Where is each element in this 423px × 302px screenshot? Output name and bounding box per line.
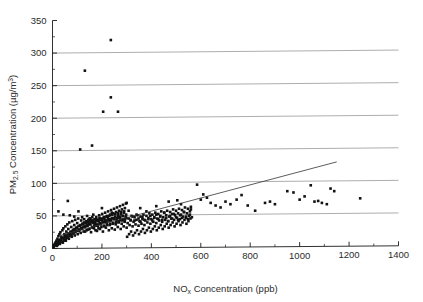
data-point: [329, 187, 332, 190]
data-point: [141, 218, 144, 221]
y-tick-label-350: 350: [31, 15, 47, 26]
data-point: [116, 217, 119, 220]
data-point: [128, 233, 131, 236]
data-point: [196, 183, 199, 186]
data-point: [143, 224, 146, 227]
data-point: [79, 148, 82, 151]
data-point: [303, 195, 306, 198]
data-point: [146, 229, 149, 232]
data-point: [115, 211, 118, 214]
data-point: [84, 69, 87, 72]
data-point: [326, 203, 329, 206]
data-point: [57, 210, 60, 213]
data-point: [173, 225, 176, 228]
data-point: [67, 228, 70, 231]
y-tick-label-200: 200: [31, 113, 47, 124]
data-point: [140, 222, 143, 225]
data-point: [99, 222, 102, 225]
data-point: [147, 217, 150, 220]
data-point: [134, 223, 137, 226]
data-point: [161, 228, 164, 231]
data-point: [133, 216, 136, 219]
data-point: [103, 216, 106, 219]
data-point: [202, 193, 205, 196]
data-point: [151, 213, 154, 216]
data-point: [69, 214, 72, 217]
data-point: [187, 207, 190, 210]
data-point: [185, 222, 188, 225]
data-point: [142, 228, 145, 231]
data-point: [119, 228, 122, 231]
data-point: [188, 215, 191, 218]
data-point: [126, 235, 129, 238]
data-point: [122, 225, 125, 228]
data-point: [155, 229, 158, 232]
y-tick-label-50: 50: [36, 210, 47, 221]
data-point: [140, 230, 143, 233]
data-point: [112, 212, 115, 215]
data-point: [229, 203, 232, 206]
data-point: [97, 227, 100, 230]
data-point: [67, 200, 70, 203]
data-point: [158, 219, 161, 222]
data-point: [175, 222, 178, 225]
data-point: [161, 220, 164, 223]
data-point: [178, 207, 181, 210]
data-point: [108, 218, 111, 221]
data-point: [286, 190, 289, 193]
data-point: [83, 218, 86, 221]
trendline: [60, 162, 337, 236]
data-point: [177, 212, 180, 215]
data-point: [102, 220, 105, 223]
data-point: [186, 212, 189, 215]
y-tick-label-250: 250: [31, 80, 47, 91]
data-point: [179, 224, 182, 227]
data-point: [166, 209, 169, 212]
data-point: [159, 224, 162, 227]
data-point: [171, 221, 174, 224]
data-point: [160, 210, 163, 213]
data-point: [85, 229, 88, 232]
data-point: [176, 199, 179, 202]
gridline-250: [53, 83, 399, 86]
data-point: [246, 204, 249, 207]
data-point: [91, 216, 94, 219]
data-point: [167, 200, 170, 203]
data-point: [125, 202, 128, 205]
data-point: [209, 202, 212, 205]
data-point: [313, 200, 316, 203]
data-point: [190, 206, 193, 209]
data-point: [181, 221, 184, 224]
data-point: [86, 215, 89, 218]
x-axis-title: NOx Concentration (ppb): [173, 283, 277, 295]
data-point: [101, 213, 104, 216]
x-tick-label-1200: 1200: [339, 249, 360, 260]
data-point: [113, 207, 116, 210]
data-point: [138, 233, 141, 236]
x-tick-label-200: 200: [94, 251, 110, 262]
data-point: [321, 202, 324, 205]
data-point: [106, 215, 109, 218]
y-tick-label-150: 150: [31, 145, 47, 156]
gridline-300: [53, 50, 399, 53]
x-tick-label-400: 400: [143, 251, 159, 262]
data-point: [167, 220, 170, 223]
data-point: [309, 184, 312, 187]
data-point: [125, 226, 128, 229]
data-point: [90, 231, 93, 234]
data-point: [154, 225, 157, 228]
data-point: [149, 222, 152, 225]
data-point: [80, 219, 83, 222]
data-point: [76, 233, 79, 236]
data-point: [70, 226, 73, 229]
data-point: [105, 219, 108, 222]
y-tick-label-100: 100: [31, 178, 47, 189]
data-point: [97, 219, 100, 222]
data-point: [76, 222, 79, 225]
data-point: [95, 216, 98, 219]
data-point: [137, 224, 140, 227]
data-point: [150, 218, 153, 221]
data-point: [150, 230, 153, 233]
data-point: [110, 209, 113, 212]
data-point: [162, 216, 165, 219]
